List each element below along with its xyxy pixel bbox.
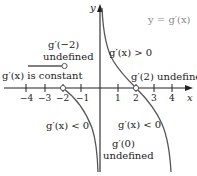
- tick-label-2: 2: [133, 93, 139, 103]
- neg-left-label: g′(x) < 0: [46, 120, 89, 131]
- g-neg2-undefined: undefined: [43, 51, 94, 62]
- x-axis-arrow-icon: [185, 85, 193, 91]
- graph-canvas: −4 −3 −2 −1 1 2 3 4 x y y = g′(x) g′(−2)…: [0, 0, 197, 176]
- g0-label: g′(0): [112, 138, 135, 149]
- tick-label-3: 3: [151, 93, 157, 103]
- open-circle-2: [133, 85, 138, 90]
- tick-label-neg4: −4: [20, 93, 34, 103]
- tick-label-neg3: −3: [38, 93, 52, 103]
- tick-label-1: 1: [115, 93, 121, 103]
- open-circle-neg2: [60, 85, 65, 90]
- open-circle-constant-end: [62, 63, 67, 68]
- g0-undefined: undefined: [103, 150, 154, 161]
- positive-label: g′(x) > 0: [109, 47, 152, 58]
- g-neg2-label: g′(−2): [48, 39, 79, 50]
- curve-label: y = g′(x): [147, 14, 191, 25]
- tick-label-neg1: −1: [76, 93, 89, 103]
- tick-label-neg2: −2: [56, 93, 69, 103]
- derivative-graph: −4 −3 −2 −1 1 2 3 4 x y y = g′(x) g′(−2)…: [0, 0, 197, 176]
- neg-right-label: g′(x) < 0: [118, 119, 161, 130]
- constant-label: g′(x) is constant: [2, 70, 82, 81]
- tick-label-4: 4: [169, 93, 175, 103]
- y-axis-label: y: [89, 2, 96, 13]
- x-axis-label: x: [187, 92, 193, 103]
- g2-undefined-label: g′(2) undefined: [131, 71, 197, 82]
